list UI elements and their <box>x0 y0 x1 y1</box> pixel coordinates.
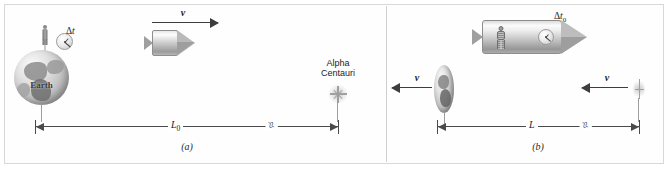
rocket-body <box>152 30 178 56</box>
velocity-arrow-earth-b <box>392 83 432 93</box>
rocket-nose-shadow <box>177 42 195 55</box>
panel-a: Δt Earth v Alpha Centauri <box>0 0 386 170</box>
arrow-head-right <box>210 18 219 28</box>
velocity-label-a: v <box>176 7 190 18</box>
earth-axis-pole <box>41 104 42 122</box>
velocity-arrow-star-b <box>582 83 628 93</box>
relativity-figure: Δt Earth v Alpha Centauri <box>0 0 668 170</box>
rocket-nose-shadow <box>561 37 587 54</box>
rocket-full-length <box>472 20 590 56</box>
panel-b: Δt0 <box>386 0 668 170</box>
dimension-tick-right <box>639 120 640 134</box>
astronaut-torso <box>497 31 505 40</box>
rocket-contracted <box>144 28 196 58</box>
panel-a-caption: (a) <box>167 141 207 152</box>
earth-continent <box>24 62 47 81</box>
star-leader-line <box>337 100 338 122</box>
astronaut-leg-gap <box>501 40 502 49</box>
distance-dimension-line-a <box>35 121 339 133</box>
star-ray <box>639 79 640 99</box>
dimension-shaft <box>35 126 339 127</box>
distance-label-a: L0 <box>168 119 183 133</box>
dimension-arrow-left <box>36 123 44 131</box>
arrow-shaft <box>152 22 218 23</box>
earth-continent <box>438 75 448 89</box>
velocity-arrow-a <box>152 18 218 28</box>
distance-label-b: L <box>526 119 538 130</box>
length-sub: 0 <box>177 124 181 133</box>
dimension-arrow-left <box>438 123 446 131</box>
star-leader-line <box>638 98 639 122</box>
dimension-arrow-right <box>330 123 338 131</box>
clock-center-pin <box>545 36 547 38</box>
distance-dimension-line-b <box>437 121 640 133</box>
earth-continent <box>47 60 64 74</box>
alpha-centauri-label: Alpha Centauri <box>306 58 370 79</box>
dimension-tick-right <box>338 120 339 134</box>
arrow-head-left <box>581 83 590 93</box>
alpha-centauri-star <box>328 84 348 104</box>
alpha-line-1: Alpha <box>306 58 370 68</box>
time-var: t <box>72 26 75 36</box>
earth-contracted <box>434 65 454 113</box>
rocket-clock-porthole <box>538 29 554 45</box>
arrow-head-left <box>391 83 400 93</box>
earth-continent <box>440 89 451 107</box>
earth-globe: Earth <box>14 50 69 105</box>
alpha-centauri-star-contracted <box>632 78 646 100</box>
earth-time-interval-label: Δt <box>66 26 75 36</box>
clock-center-pin <box>64 41 66 43</box>
panel-b-caption: (b) <box>518 141 558 152</box>
alpha-line-2: Centauri <box>306 68 370 78</box>
velocity-label-star-b: v <box>600 72 614 83</box>
dimension-shaft <box>437 126 640 127</box>
velocity-label-earth-b: v <box>410 72 424 83</box>
length-var: L <box>529 119 535 130</box>
astronaut <box>496 26 506 50</box>
earth-label: Earth <box>14 80 69 90</box>
dimension-arrow-right <box>631 123 639 131</box>
